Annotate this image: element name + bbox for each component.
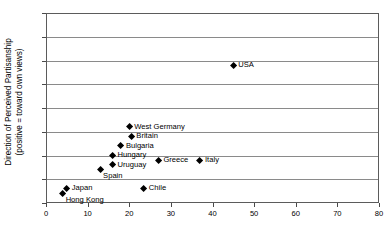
x-axis-tick-label: 20 — [109, 210, 149, 218]
data-point-label: Chile — [149, 184, 166, 192]
y-axis-title-line1: Direction of Perceived Partisanship — [4, 38, 15, 165]
data-point-label: Bulgaria — [126, 142, 154, 150]
y-axis-title-line2: (positive = toward own views) — [14, 38, 25, 165]
gridline — [47, 132, 378, 133]
x-axis-tick-label: 10 — [68, 210, 108, 218]
data-point-label: Hungary — [118, 151, 147, 159]
gridline — [47, 37, 378, 38]
y-axis-tick — [42, 108, 46, 109]
data-point-label: Uruguay — [118, 161, 147, 169]
x-axis-tick — [213, 203, 214, 207]
y-axis-tick — [42, 84, 46, 85]
y-axis-tick — [42, 61, 46, 62]
gridline — [47, 84, 378, 85]
y-axis-tick — [42, 37, 46, 38]
data-point-label: Japan — [72, 184, 93, 192]
data-point-label: Spain — [103, 172, 122, 180]
x-axis-tick-label: 30 — [151, 210, 191, 218]
x-axis-tick-label: 60 — [276, 210, 316, 218]
x-axis-tick — [254, 203, 255, 207]
x-axis-tick — [379, 203, 380, 207]
data-point-label: Italy — [205, 156, 219, 164]
data-point-label: West Germany — [134, 123, 185, 131]
x-axis-tick-label: 50 — [234, 210, 274, 218]
y-axis-tick — [42, 179, 46, 180]
data-point-label: Hong Kong — [66, 196, 104, 204]
data-point-label: Britain — [136, 132, 158, 140]
y-axis-tick — [42, 13, 46, 14]
plot-area — [46, 13, 379, 203]
x-axis-tick-label: 70 — [317, 210, 357, 218]
gridline — [47, 179, 378, 180]
x-axis-tick — [46, 203, 47, 207]
y-axis-title: Direction of Perceived Partisanship (pos… — [0, 0, 28, 203]
y-axis-tick — [42, 156, 46, 157]
data-point-label: USA — [238, 61, 254, 69]
gridline — [47, 13, 378, 14]
gridline — [47, 108, 378, 109]
x-axis-tick — [129, 203, 130, 207]
scatter-chart: Direction of Perceived Partisanship (pos… — [0, 0, 387, 243]
x-axis-tick-label: 40 — [193, 210, 233, 218]
data-point-label: Greece — [163, 156, 188, 164]
x-axis-tick-label: 80 — [359, 210, 387, 218]
x-axis-tick — [337, 203, 338, 207]
gridline — [47, 61, 378, 62]
x-axis-tick — [296, 203, 297, 207]
x-axis-tick — [171, 203, 172, 207]
y-axis-tick — [42, 132, 46, 133]
x-axis-tick-label: 0 — [26, 210, 66, 218]
